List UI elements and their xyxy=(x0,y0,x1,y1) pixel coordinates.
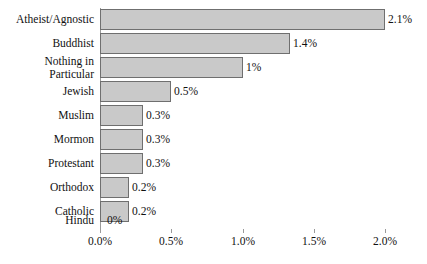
bar-value-label: 0.3% xyxy=(146,156,170,170)
bar-value-label: 1.4% xyxy=(293,36,317,50)
x-tick-mark xyxy=(171,229,172,233)
category-label-9: Hindu xyxy=(2,214,94,227)
bar-buddhist[interactable] xyxy=(100,33,290,54)
x-tick-label-3: 1.5% xyxy=(286,234,342,248)
bar-value-label: 0.2% xyxy=(132,204,156,218)
bar-value-label: 0.3% xyxy=(146,108,170,122)
x-tick-label-1: 0.5% xyxy=(143,234,199,248)
category-label-0: Atheist/Agnostic xyxy=(2,13,94,26)
bar-protestant[interactable] xyxy=(100,153,143,174)
bar-jewish[interactable] xyxy=(100,81,171,102)
bar-value-label: 0% xyxy=(107,213,122,227)
x-tick-label-2: 1.0% xyxy=(215,234,271,248)
bar-chart: Atheist/Agnostic Buddhist Nothing in Par… xyxy=(0,0,427,264)
category-label-4: Muslim xyxy=(2,109,94,122)
category-label-3: Jewish xyxy=(2,85,94,98)
bar-value-label: 2.1% xyxy=(388,12,412,26)
bar-nothing-in-particular[interactable] xyxy=(100,57,243,78)
bar-muslim[interactable] xyxy=(100,105,143,126)
bar-mormon[interactable] xyxy=(100,129,143,150)
bar-value-label: 0.2% xyxy=(132,180,156,194)
category-label-6: Protestant xyxy=(2,157,94,170)
bar-orthodox[interactable] xyxy=(100,177,129,198)
category-label-2: Nothing in Particular xyxy=(2,55,94,80)
bar-atheist-agnostic[interactable] xyxy=(100,9,385,30)
bar-value-label: 1% xyxy=(246,60,261,74)
category-label-5: Mormon xyxy=(2,133,94,146)
x-tick-mark xyxy=(100,229,101,233)
bar-value-label: 0.3% xyxy=(146,132,170,146)
bar-value-label: 0.5% xyxy=(174,84,198,98)
category-label-1: Buddhist xyxy=(2,37,94,50)
x-tick-label-4: 2.0% xyxy=(357,234,413,248)
x-tick-mark xyxy=(243,229,244,233)
x-tick-label-0: 0.0% xyxy=(72,234,128,248)
x-tick-mark xyxy=(385,229,386,233)
category-label-7: Orthodox xyxy=(2,181,94,194)
x-tick-mark xyxy=(314,229,315,233)
